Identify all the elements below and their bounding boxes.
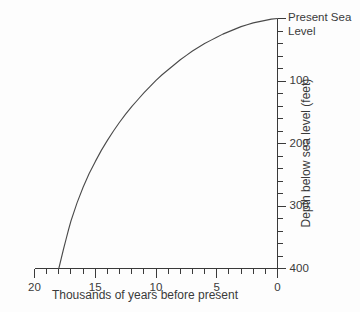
- y-axis-title: Depth below sea level (feet): [299, 58, 313, 248]
- sea-level-curve: [59, 19, 278, 269]
- x-axis-title: Thousands of years before present: [0, 288, 290, 302]
- y-axis-tick-label: 400: [290, 262, 310, 274]
- y-axis-top-label-line1: Present Sea: [288, 10, 351, 24]
- y-axis-top-label: Present Sea Level: [288, 10, 351, 38]
- y-axis-top-label-line2: Level: [288, 24, 351, 38]
- data-curve-group: [59, 19, 278, 269]
- axes-group: [35, 19, 286, 278]
- sea-level-chart: Present Sea Level 10020030040020151050 T…: [0, 0, 360, 312]
